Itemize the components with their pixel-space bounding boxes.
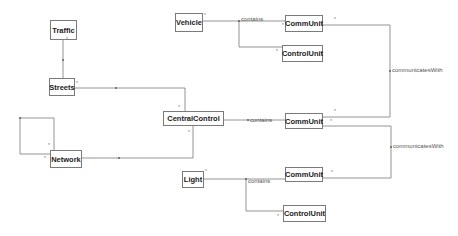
class-name: ControlUnit (282, 49, 323, 58)
class-name: Network (51, 155, 81, 164)
class-central-control[interactable]: CentralControl (163, 111, 224, 126)
multiplicity: * (205, 168, 207, 174)
label-contains-vehicle: contains (241, 16, 263, 22)
label-contains-central: contains (250, 117, 272, 123)
class-name: Light (184, 175, 202, 184)
label-communicates-bottom: communicatesWith (393, 143, 444, 149)
multiplicity: * (334, 108, 336, 114)
class-name: CentralControl (167, 114, 220, 123)
class-name: Traffic (52, 26, 75, 35)
multiplicity: * (282, 22, 284, 28)
class-name: CommUnit (285, 19, 323, 28)
multiplicity: * (44, 155, 46, 161)
multiplicity: * (204, 12, 206, 18)
class-name: Vehicle (176, 18, 202, 27)
class-controlunit-top[interactable]: ControlUnit (282, 45, 323, 62)
multiplicity: * (48, 142, 50, 148)
class-light[interactable]: Light (182, 171, 204, 188)
multiplicity: * (276, 48, 278, 54)
class-name: CommUnit (285, 117, 323, 126)
multiplicity: * (188, 129, 190, 135)
label-contains-light: contains (248, 178, 270, 184)
multiplicity: * (277, 213, 279, 219)
multiplicity: * (334, 16, 336, 22)
class-vehicle[interactable]: Vehicle (175, 13, 203, 32)
class-name: Streets (49, 83, 74, 92)
class-name: CommUnit (285, 170, 323, 179)
class-communit-bottom[interactable]: CommUnit (285, 167, 323, 182)
class-streets[interactable]: Streets (49, 78, 75, 96)
label-communicates-top: communicatesWith (392, 67, 443, 73)
class-name: ControlUnit (284, 209, 325, 218)
class-communit-top[interactable]: CommUnit (285, 15, 323, 32)
multiplicity: * (178, 104, 180, 110)
multiplicity: * (330, 118, 332, 124)
class-communit-mid[interactable]: CommUnit (285, 113, 323, 129)
class-controlunit-bottom[interactable]: ControlUnit (283, 205, 326, 222)
class-traffic[interactable]: Traffic (50, 20, 77, 40)
multiplicity: * (66, 36, 68, 42)
multiplicity: * (76, 80, 78, 86)
multiplicity: * (331, 169, 333, 175)
class-network[interactable]: Network (50, 150, 82, 168)
